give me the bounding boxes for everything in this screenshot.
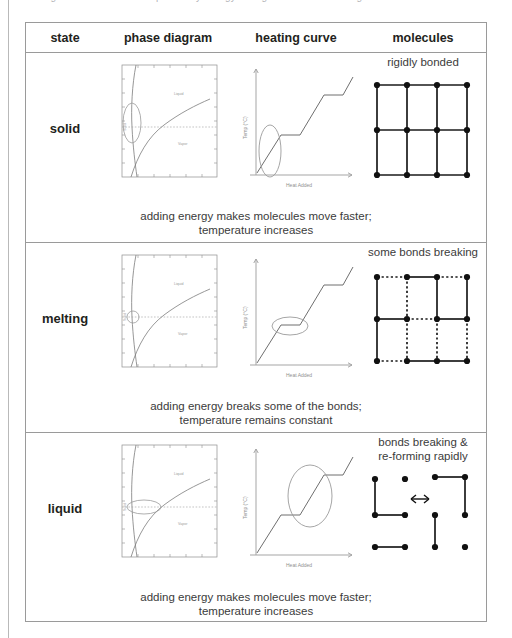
molecules-title-solid: rigidly bonded bbox=[360, 55, 486, 69]
table-row-solid: solid bbox=[26, 53, 486, 243]
table-row-liquid: liquid bbox=[26, 433, 486, 623]
phase-diagram-svg: Liquid Vapor Solid bbox=[104, 243, 232, 393]
phase-diagram-svg: Liquid Vapor Solid bbox=[104, 53, 232, 203]
phase-label-vapor: Vapor bbox=[178, 332, 188, 336]
column-header-heating-curve: heating curve bbox=[232, 23, 360, 52]
caption-line-1: adding energy makes molecules move faste… bbox=[140, 591, 371, 603]
heating-curve-svg: Temp (°C) Heat Added bbox=[232, 433, 360, 583]
molecules-title-line-1: bonds breaking & bbox=[378, 436, 468, 448]
phase-label-solid: Solid bbox=[123, 313, 127, 321]
states-of-matter-table: state phase diagram heating curve molecu… bbox=[25, 22, 487, 622]
caption-line-1: adding energy breaks some of the bonds; bbox=[150, 400, 362, 412]
phase-label-solid: Solid bbox=[123, 503, 127, 511]
phase-diagram-solid: Liquid Vapor Solid bbox=[104, 53, 232, 203]
heating-curve-svg: Temp (°C) Heat Added bbox=[232, 243, 360, 393]
heating-curve-xlabel: Heat Added bbox=[286, 182, 312, 188]
molecules-liquid: bonds breaking & re-forming rapidly bbox=[360, 433, 486, 583]
heating-curve-ylabel: Temp (°C) bbox=[242, 306, 248, 329]
phase-diagram-svg: Liquid Vapor Solid bbox=[104, 433, 232, 583]
page-margin-rule bbox=[8, 0, 9, 638]
caption-line-2: temperature remains constant bbox=[26, 413, 486, 427]
heating-curve-svg: Temp (°C) Heat Added bbox=[232, 53, 360, 203]
phase-label-vapor: Vapor bbox=[178, 522, 188, 526]
phase-diagram-melting: Liquid Vapor Solid bbox=[104, 243, 232, 393]
phase-label-liquid: Liquid bbox=[174, 472, 184, 476]
heating-curve-melting: Temp (°C) Heat Added bbox=[232, 243, 360, 393]
state-label-solid: solid bbox=[26, 53, 104, 203]
heating-curve-ylabel: Temp (°C) bbox=[242, 116, 248, 139]
row-caption-solid: adding energy makes molecules move faste… bbox=[26, 209, 486, 237]
heating-curve-xlabel: Heat Added bbox=[286, 372, 312, 378]
phase-label-liquid: Liquid bbox=[174, 92, 184, 96]
molecules-title-melting: some bonds breaking bbox=[360, 245, 486, 259]
row-caption-liquid: adding energy makes molecules move faste… bbox=[26, 590, 486, 618]
column-header-phase-diagram: phase diagram bbox=[104, 23, 232, 52]
phase-label-vapor: Vapor bbox=[178, 142, 188, 146]
double-arrow-icon bbox=[411, 495, 429, 503]
molecule-lattice-solid bbox=[360, 53, 486, 203]
column-header-state: state bbox=[26, 23, 104, 52]
table-header-row: state phase diagram heating curve molecu… bbox=[26, 23, 486, 53]
caption-line-2: temperature increases bbox=[26, 604, 486, 618]
molecules-title-line-2: re-forming rapidly bbox=[378, 450, 467, 462]
caption-line-1: adding energy makes molecules move faste… bbox=[140, 210, 371, 222]
column-header-molecules: molecules bbox=[360, 23, 486, 52]
state-label-melting: melting bbox=[26, 243, 104, 393]
state-label-liquid: liquid bbox=[26, 433, 104, 583]
molecules-solid: rigidly bonded bbox=[360, 53, 486, 203]
molecules-title-liquid: bonds breaking & re-forming rapidly bbox=[360, 435, 486, 463]
phase-label-liquid: Liquid bbox=[174, 282, 184, 286]
caption-line-2: temperature increases bbox=[26, 223, 486, 237]
phase-diagram-liquid: Liquid Vapor Solid bbox=[104, 433, 232, 583]
row-caption-melting: adding energy breaks some of the bonds; … bbox=[26, 399, 486, 427]
heating-curve-solid: Temp (°C) Heat Added bbox=[232, 53, 360, 203]
heating-curve-liquid: Temp (°C) Heat Added bbox=[232, 433, 360, 583]
heating-curve-xlabel: Heat Added bbox=[286, 562, 312, 568]
heating-curve-highlight-melting bbox=[272, 317, 308, 335]
table-row-melting: melting bbox=[26, 243, 486, 433]
molecules-melting: some bonds breaking bbox=[360, 243, 486, 393]
cut-off-heading-text: changes of state are accompanied by ener… bbox=[28, 0, 498, 5]
heating-curve-ylabel: Temp (°C) bbox=[242, 496, 248, 519]
heating-curve-highlight-solid bbox=[259, 125, 281, 177]
heating-curve-highlight-liquid bbox=[288, 465, 332, 527]
molecule-lattice-melting bbox=[360, 243, 486, 393]
